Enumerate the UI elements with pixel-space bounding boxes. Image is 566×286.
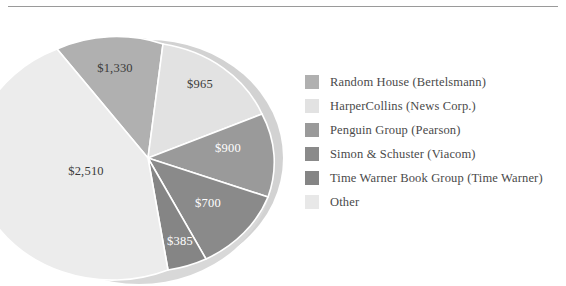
slice-label-penguin: $900 [215,141,241,155]
legend-item-harpercollins[interactable]: HarperCollins (News Corp.) [305,94,563,118]
legend-swatch-icon [305,99,319,113]
legend-item-penguin[interactable]: Penguin Group (Pearson) [305,118,563,142]
legend-swatch-icon [305,75,319,89]
legend-label: Simon & Schuster (Viacom) [330,147,476,162]
top-divider-rule [8,6,558,7]
legend-label: Penguin Group (Pearson) [330,123,461,138]
slice-label-other: $2,510 [68,164,104,178]
slice-label-harpercollins: $965 [187,77,213,91]
legend-item-other[interactable]: Other [305,190,563,214]
chart-legend: Random House (Bertelsmann) HarperCollins… [305,70,563,214]
legend-swatch-icon [305,123,319,137]
slice-label-time-warner: $385 [167,234,193,248]
legend-label: Other [330,195,359,210]
legend-label: Random House (Bertelsmann) [330,75,486,90]
slice-label-simon-schuster: $700 [195,196,221,210]
legend-swatch-icon [305,147,319,161]
legend-item-random-house[interactable]: Random House (Bertelsmann) [305,70,563,94]
legend-swatch-icon [305,171,319,185]
pie-chart-area: $1,330 $965 $900 $700 $385 $2,510 [0,10,300,286]
slice-label-random-house: $1,330 [97,61,133,75]
legend-item-time-warner[interactable]: Time Warner Book Group (Time Warner) [305,166,563,190]
legend-label: Time Warner Book Group (Time Warner) [330,171,543,186]
legend-swatch-icon [305,195,319,209]
legend-item-simon-schuster[interactable]: Simon & Schuster (Viacom) [305,142,563,166]
pie-chart-svg: $1,330 $965 $900 $700 $385 $2,510 [0,10,300,286]
figure: $1,330 $965 $900 $700 $385 $2,510 Random… [0,0,566,286]
legend-label: HarperCollins (News Corp.) [330,99,476,114]
